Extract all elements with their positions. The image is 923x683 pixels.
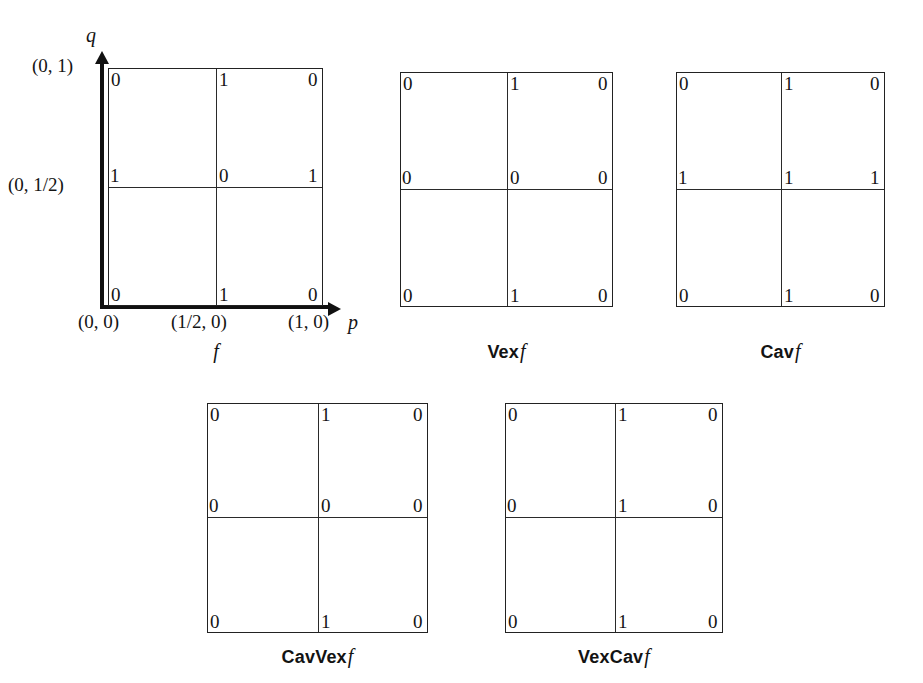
y-axis-label: q: [86, 24, 96, 47]
cell-value: 1: [784, 168, 794, 187]
caption-operator: Cav: [760, 342, 794, 362]
cell-value: 0: [413, 405, 423, 424]
cell-value: 0: [708, 612, 718, 631]
caption-operator: VexCav: [578, 647, 643, 667]
caption-vexcav-f: VexCavf: [505, 645, 723, 668]
caption-function: f: [519, 340, 526, 362]
panel-vexcav-f: 0 1 0 0 1 0 0 1 0: [505, 403, 723, 633]
caption-cav-f: Cavf: [676, 340, 885, 363]
top-cutoff-text: [60, 0, 880, 7]
x-axis-label: p: [348, 311, 358, 334]
panel-cav-f: 0 1 0 1 1 1 0 1 0: [676, 72, 885, 307]
cell-value: 0: [413, 612, 423, 631]
caption-operator: Vex: [487, 342, 519, 362]
cell-value: 0: [219, 166, 229, 185]
cell-value: 0: [210, 405, 220, 424]
grid-horizontal-midline: [208, 517, 427, 518]
cell-value: 1: [618, 496, 628, 515]
unit-square-box: [400, 72, 613, 307]
cell-value: 0: [708, 405, 718, 424]
cell-value: 1: [678, 168, 688, 187]
cell-value: 0: [708, 496, 718, 515]
cell-value: 0: [510, 168, 520, 187]
grid-horizontal-midline: [109, 187, 322, 188]
x-tick-label-1: (1, 0): [288, 311, 329, 333]
cell-value: 0: [210, 612, 220, 631]
cell-value: 0: [598, 74, 608, 93]
cell-value: 0: [870, 74, 880, 93]
cell-value: 0: [679, 74, 689, 93]
unit-square-box: [108, 68, 323, 306]
cell-value: 0: [507, 496, 517, 515]
cell-value: 0: [413, 496, 423, 515]
cell-value: 0: [402, 168, 412, 187]
caption-operator: CavVex: [282, 647, 347, 667]
cell-value: 0: [403, 286, 413, 305]
figure-canvas: q p (0, 1) (0, 1/2) (0, 0) (1/2, 0) (1, …: [0, 0, 923, 683]
panel-f: q p (0, 1) (0, 1/2) (0, 0) (1/2, 0) (1, …: [108, 68, 323, 306]
cell-value: 1: [870, 168, 880, 187]
caption-f: f: [108, 340, 323, 363]
caption-vex-f: Vexf: [400, 340, 613, 363]
cell-value: 0: [679, 286, 689, 305]
grid-vertical-midline: [318, 404, 319, 632]
unit-square-box: [505, 403, 723, 633]
cell-value: 0: [111, 70, 121, 89]
cell-value: 1: [219, 70, 229, 89]
cell-value: 0: [209, 496, 219, 515]
cell-value: 1: [110, 166, 120, 185]
cell-value: 1: [618, 612, 628, 631]
cell-value: 0: [508, 405, 518, 424]
cell-value: 0: [598, 286, 608, 305]
caption-function: f: [212, 340, 219, 362]
cell-value: 0: [508, 612, 518, 631]
y-axis-arrowhead: [95, 51, 109, 64]
cell-value: 1: [219, 285, 229, 304]
grid-vertical-midline: [615, 404, 616, 632]
x-tick-label-0: (0, 0): [78, 311, 119, 333]
caption-function: f: [347, 645, 354, 667]
caption-function: f: [794, 340, 801, 362]
x-tick-label-half: (1/2, 0): [171, 311, 227, 333]
caption-function: f: [643, 645, 650, 667]
caption-cavvex-f: CavVexf: [207, 645, 428, 668]
panel-vex-f: 0 1 0 0 0 0 0 1 0: [400, 72, 613, 307]
grid-horizontal-midline: [401, 189, 612, 190]
cell-value: 1: [308, 166, 318, 185]
grid-horizontal-midline: [677, 189, 884, 190]
cell-value: 0: [308, 285, 318, 304]
y-tick-label-1: (0, 1): [32, 55, 73, 77]
x-axis-arrowhead: [328, 302, 341, 316]
y-axis-line: [100, 64, 104, 309]
y-tick-label-0: (0, 1/2): [8, 174, 64, 196]
panel-cavvex-f: 0 1 0 0 0 0 0 1 0: [207, 403, 428, 633]
unit-square-box: [676, 72, 885, 307]
cell-value: 1: [618, 405, 628, 424]
cell-value: 1: [510, 74, 520, 93]
unit-square-box: [207, 403, 428, 633]
cell-value: 0: [403, 74, 413, 93]
grid-horizontal-midline: [506, 517, 722, 518]
cell-value: 0: [870, 286, 880, 305]
cell-value: 0: [111, 285, 121, 304]
cell-value: 1: [784, 286, 794, 305]
cell-value: 1: [784, 74, 794, 93]
cell-value: 0: [308, 70, 318, 89]
cell-value: 0: [321, 496, 331, 515]
cell-value: 1: [510, 286, 520, 305]
cell-value: 1: [321, 405, 331, 424]
cell-value: 0: [598, 168, 608, 187]
cell-value: 1: [321, 612, 331, 631]
